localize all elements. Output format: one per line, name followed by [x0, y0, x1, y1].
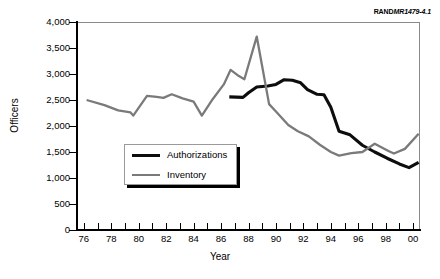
legend-item-inventory: Inventory — [125, 165, 236, 185]
legend: Authorizations Inventory — [124, 144, 237, 185]
legend-swatch-authorizations — [132, 154, 160, 157]
legend-swatch-inventory — [132, 174, 160, 176]
series-layer — [0, 0, 440, 279]
legend-label-authorizations: Authorizations — [167, 150, 227, 160]
series-line-inventory — [87, 37, 419, 156]
legend-item-authorizations: Authorizations — [125, 145, 236, 165]
legend-label-inventory: Inventory — [167, 170, 206, 180]
series-line-authorizations — [229, 80, 418, 168]
chart-figure: RANDMR1479-4.1 05001,0001,5002,0002,5003… — [0, 0, 440, 279]
